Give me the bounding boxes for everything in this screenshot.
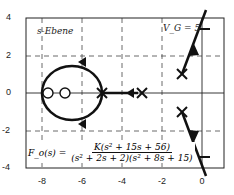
- x-tick-minus-8: -8: [32, 176, 52, 186]
- zero-minus-7: [60, 88, 70, 98]
- x-tick-minus-4: -4: [112, 176, 132, 186]
- formula-numerator: K(s² + 15s + 56): [92, 142, 172, 153]
- y-tick-minus-2: -2: [2, 125, 10, 135]
- plane-label: s-Ebene: [37, 26, 73, 36]
- arrow-real: [126, 88, 134, 98]
- gain-annotation: V_G = 5: [163, 23, 200, 33]
- transfer-function: F_o(s) = K(s² + 15s + 56) (s² + 2s + 2)(…: [28, 142, 195, 163]
- zero-minus-8: [43, 88, 53, 98]
- x-tick-minus-6: -6: [72, 176, 92, 186]
- x-tick-minus-2: -2: [152, 176, 172, 186]
- formula-denominator: (s² + 2s + 2)(s² + 8s + 15): [69, 153, 194, 163]
- y-tick-0: 0: [6, 87, 11, 97]
- y-tick-2: 2: [6, 50, 11, 60]
- y-tick-minus-4: -4: [2, 162, 10, 172]
- formula-lhs: F_o(s) =: [28, 148, 66, 158]
- y-tick-4: 4: [6, 12, 11, 22]
- x-tick-0: 0: [192, 176, 212, 186]
